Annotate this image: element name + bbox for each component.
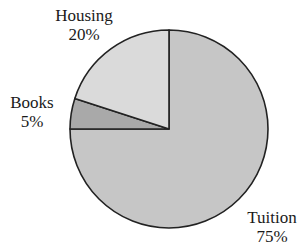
label-books-name: Books xyxy=(4,93,60,112)
label-tuition-pct: 75% xyxy=(238,227,306,246)
label-tuition: Tuition 75% xyxy=(238,208,306,246)
label-housing: Housing 20% xyxy=(48,6,120,44)
label-housing-pct: 20% xyxy=(48,25,120,44)
label-books-pct: 5% xyxy=(4,112,60,131)
label-books: Books 5% xyxy=(4,93,60,131)
label-tuition-name: Tuition xyxy=(238,208,306,227)
pie-slices xyxy=(70,30,268,228)
label-housing-name: Housing xyxy=(48,6,120,25)
